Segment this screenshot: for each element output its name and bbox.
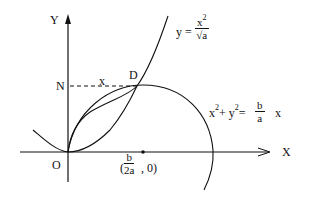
parabola-fraction: x2 √a (195, 17, 209, 41)
x-axis-label: X (282, 146, 291, 158)
center-den: 2a (124, 164, 134, 176)
center-num: b (124, 152, 134, 164)
circle-tail: x (275, 107, 281, 119)
parabola-lhs: y = (176, 26, 192, 38)
origin-label: O (52, 159, 61, 171)
circle-fraction: b a (255, 100, 265, 124)
segment-x-label: x (99, 75, 105, 87)
circle-den: a (257, 112, 262, 124)
parabola-curve (68, 16, 168, 152)
center-close: , 0) (141, 162, 157, 174)
point-d-label: D (129, 69, 138, 81)
left-curve (33, 130, 68, 152)
parabola-num: x2 (195, 17, 209, 29)
circle-eq-lhs: x2+ y2= (209, 107, 246, 119)
center-point (141, 150, 145, 154)
center-fraction: b 2a (124, 152, 134, 176)
y-axis (65, 14, 71, 182)
x-axis (20, 148, 270, 156)
circle-num: b (255, 100, 265, 112)
parabola-den: √a (196, 29, 207, 41)
y-axis-label: Y (50, 14, 59, 26)
point-n-label: N (56, 80, 65, 92)
lower-curve (68, 86, 137, 152)
